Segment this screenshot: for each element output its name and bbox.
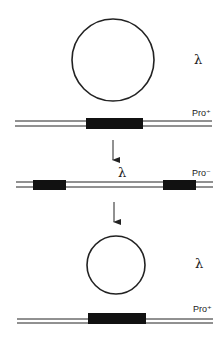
pro-gene-block — [86, 118, 143, 129]
pro-gene-block-left — [33, 180, 66, 190]
phage-circle — [72, 19, 154, 101]
chromosome-label: Pro⁺ — [192, 108, 211, 118]
phage-circle — [87, 236, 145, 294]
chromosome-label: Pro⁻ — [192, 168, 211, 178]
pro-gene-block-right — [163, 180, 196, 190]
stage-bottom: λ Pro⁺ — [17, 236, 213, 324]
insert-label: λ — [118, 165, 126, 180]
chromosome-bottom — [17, 313, 213, 324]
phage-label: λ — [194, 52, 202, 67]
stage-top: λ Pro⁺ — [15, 19, 212, 129]
phage-label: λ — [195, 256, 203, 271]
chromosome-label: Pro⁺ — [193, 304, 212, 314]
chromosome-middle — [16, 180, 213, 190]
lambda-integration-diagram: λ Pro⁺ λ Pro⁻ λ Pro⁺ — [0, 0, 223, 341]
chromosome-top — [15, 118, 212, 129]
pro-gene-block — [88, 313, 146, 324]
stage-middle: λ Pro⁻ — [16, 165, 213, 190]
